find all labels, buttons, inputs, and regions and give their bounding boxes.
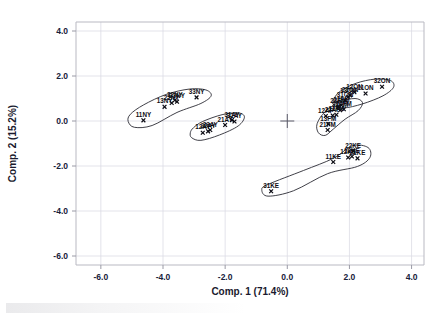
x-tick-label-3: 0.0 — [281, 272, 293, 282]
point-label-23ny: 23NY — [169, 92, 186, 99]
x-tick-label-4: 2.0 — [344, 272, 356, 282]
data-point-11ny — [142, 118, 146, 122]
data-point-11ke — [331, 160, 335, 164]
pca-score-plot: -6.0-4.0-2.00.02.04.04.02.00.0-2.0-4.0-6… — [0, 0, 448, 315]
point-label-11ny: 11NY — [136, 111, 152, 118]
point-label-21ke: 21KE — [350, 149, 366, 156]
point-label-11ke: 11KE — [326, 153, 341, 160]
data-point-33ny — [195, 95, 199, 99]
data-point-11on — [364, 92, 368, 96]
x-tick-label-5: 4.0 — [406, 272, 418, 282]
y-axis-title: Comp. 2 (15.2%) — [7, 105, 18, 182]
y-tick-label-0: 4.0 — [56, 26, 68, 36]
point-label-11on: 11ON — [358, 84, 375, 91]
point-label-22ke: 22KE — [345, 142, 361, 149]
data-point-21ke — [356, 156, 360, 160]
y-tick-label-3: -2.0 — [53, 161, 68, 171]
x-tick-label-0: -6.0 — [94, 272, 109, 282]
point-label-33ny: 33NY — [189, 88, 206, 95]
x-tick-label-2: -2.0 — [218, 272, 233, 282]
point-label-22fm: 22FM — [333, 96, 349, 103]
x-tick-label-1: -4.0 — [156, 272, 171, 282]
point-label-23ay: 23AY — [203, 121, 219, 128]
plot-canvas: -6.0-4.0-2.00.02.04.04.02.00.0-2.0-4.0-6… — [0, 0, 448, 315]
y-tick-label-1: 2.0 — [56, 71, 68, 81]
data-point-21fm — [326, 128, 330, 132]
point-label-32on: 32ON — [374, 77, 391, 84]
y-tick-label-5: -6.0 — [53, 251, 68, 261]
data-point-31ke — [269, 189, 273, 193]
page-artifact-smudge — [6, 303, 246, 313]
y-tick-label-4: -4.0 — [53, 206, 68, 216]
point-label-21fm: 21FM — [320, 121, 336, 128]
y-tick-label-2: 0.0 — [56, 116, 68, 126]
point-label-32ay: 32AY — [227, 112, 243, 119]
point-label-31ke: 31KE — [263, 182, 279, 189]
x-axis-title: Comp. 1 (71.4%) — [211, 286, 288, 297]
data-point-12ay — [201, 131, 205, 135]
data-point-32on — [380, 85, 384, 89]
